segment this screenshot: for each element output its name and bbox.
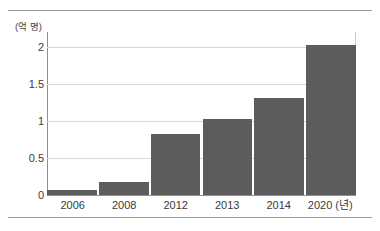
bar-2012 <box>151 134 201 195</box>
y-tick-label: 2 <box>4 42 44 53</box>
y-axis-unit-label: (억 명) <box>15 21 42 33</box>
bar-slot <box>254 32 304 195</box>
bar-2006 <box>47 190 97 195</box>
bar-slot <box>47 32 97 195</box>
x-tick-label-2020: 2020 (년) <box>300 199 360 212</box>
y-tick-label: 1.5 <box>4 79 44 90</box>
bottom-divider-rule <box>8 217 372 218</box>
bar-slot <box>151 32 201 195</box>
gridline-0 <box>47 195 356 196</box>
bar-2014 <box>254 98 304 195</box>
bar-chart-figure: (억 명) 00.511.52 200620082012201320142020… <box>0 0 380 231</box>
bar-2008 <box>99 182 149 195</box>
y-tick-label: 0 <box>4 190 44 201</box>
bar-slot <box>99 32 149 195</box>
bar-2020 <box>306 45 356 195</box>
plot-area <box>47 32 356 195</box>
bar-slot <box>203 32 253 195</box>
y-tick-label: 0.5 <box>4 153 44 164</box>
y-tick-label: 1 <box>4 116 44 127</box>
bars-group <box>47 32 356 195</box>
bar-2013 <box>203 119 253 195</box>
top-divider-rule <box>8 10 372 11</box>
bar-slot <box>306 32 356 195</box>
